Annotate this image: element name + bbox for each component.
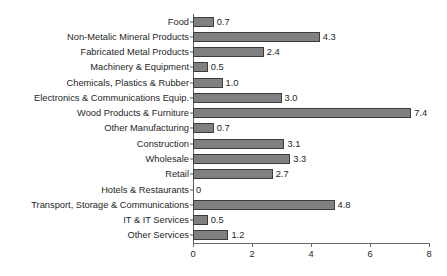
bar-row: Non-Metalic Mineral Products4.3 [193,29,429,44]
bar-row: Food0.7 [193,14,429,29]
category-label: Chemicals, Plastics & Rubber [67,78,189,88]
value-axis-tick-label: 2 [249,249,254,259]
bar [193,32,320,42]
bar [193,62,208,72]
bar-value-label: 0.5 [211,62,224,72]
bar [193,169,273,179]
bar-value-label: 0.7 [217,17,230,27]
bar [193,108,411,118]
value-axis-tick [370,243,371,247]
bar-value-label: 7.4 [414,108,427,118]
bar-row: Other Services1.2 [193,228,429,243]
bar-row: Transport, Storage & Communications4.8 [193,197,429,212]
plot-area: Food0.7Non-Metalic Mineral Products4.3Fa… [193,14,429,243]
bar-value-label: 4.8 [338,200,351,210]
bar-value-label: 2.4 [267,47,280,57]
bar-row: Construction3.1 [193,136,429,151]
value-axis-tick [311,243,312,247]
bar [193,154,290,164]
category-label: Wood Products & Furniture [77,108,189,118]
bar-chart: Food0.7Non-Metalic Mineral Products4.3Fa… [0,0,447,276]
category-label: Non-Metalic Mineral Products [67,32,189,42]
bar-row: Machinery & Equipment0.5 [193,60,429,75]
category-label: Wholesale [146,154,189,164]
bar-value-label: 0 [196,185,201,195]
value-axis-tick [252,243,253,247]
category-label: Machinery & Equipment [90,62,189,72]
bar-value-label: 3.1 [287,139,300,149]
bar-value-label: 3.3 [293,154,306,164]
value-axis-tick-label: 0 [190,249,195,259]
bar-row: Wood Products & Furniture7.4 [193,106,429,121]
category-label: Transport, Storage & Communications [31,200,189,210]
bar-row: Other Manufacturing0.7 [193,121,429,136]
category-label: Food [168,17,189,27]
bar-row: Retail2.7 [193,167,429,182]
category-label: Retail [165,169,189,179]
bar [193,139,284,149]
category-tick [190,189,193,190]
bar [193,230,228,240]
category-label: Construction [137,139,189,149]
bar [193,93,282,103]
bar-row: Electronics & Communications Equip.3.0 [193,90,429,105]
bar [193,47,264,57]
bar [193,78,223,88]
bar-value-label: 1.0 [226,78,239,88]
category-label: Other Services [128,230,189,240]
category-label: Hotels & Restaurants [101,185,189,195]
category-label: Other Manufacturing [104,123,189,133]
bar-value-label: 0.5 [211,215,224,225]
bar [193,200,335,210]
bar-value-label: 3.0 [285,93,298,103]
bar-value-label: 0.7 [217,123,230,133]
category-label: Electronics & Communications Equip. [34,93,189,103]
value-axis-tick-label: 8 [426,249,431,259]
bar-value-label: 2.7 [276,169,289,179]
bar-row: IT & IT Services0.5 [193,212,429,227]
bar [193,17,214,27]
bar-row: Chemicals, Plastics & Rubber1.0 [193,75,429,90]
category-label: IT & IT Services [123,215,189,225]
bar-value-label: 4.3 [323,32,336,42]
bar [193,215,208,225]
bar-row: Hotels & Restaurants0 [193,182,429,197]
bar-row: Fabricated Metal Products2.4 [193,45,429,60]
bar-value-label: 1.2 [231,230,244,240]
bar-row: Wholesale3.3 [193,151,429,166]
value-axis-tick [193,243,194,247]
value-axis-tick-label: 6 [367,249,372,259]
value-axis-tick-label: 4 [308,249,313,259]
category-label: Fabricated Metal Products [80,47,189,57]
bar [193,123,214,133]
value-axis-tick [429,243,430,247]
